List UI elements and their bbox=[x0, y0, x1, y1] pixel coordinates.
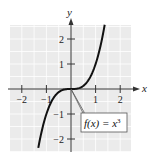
svg-text:1: 1 bbox=[59, 59, 64, 70]
function-label: f(x) = x bbox=[84, 117, 117, 130]
cubic-function-graph: −2−112−2−112 f(x) = x3 x y bbox=[0, 0, 152, 158]
svg-text:2: 2 bbox=[59, 34, 64, 45]
svg-text:2: 2 bbox=[118, 94, 123, 105]
svg-text:−1: −1 bbox=[53, 109, 64, 120]
x-axis-label: x bbox=[141, 82, 147, 94]
svg-text:1: 1 bbox=[93, 94, 98, 105]
y-axis-label: y bbox=[66, 6, 72, 18]
svg-text:−2: −2 bbox=[53, 134, 64, 145]
svg-text:−2: −2 bbox=[16, 94, 27, 105]
svg-text:f(x) = x3: f(x) = x3 bbox=[84, 117, 121, 130]
function-label-exponent: 3 bbox=[117, 117, 121, 125]
